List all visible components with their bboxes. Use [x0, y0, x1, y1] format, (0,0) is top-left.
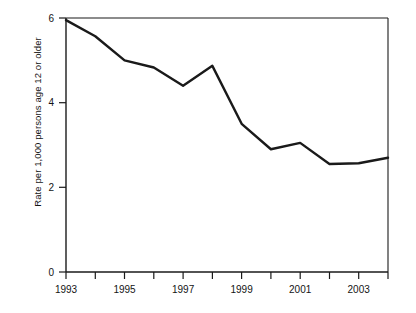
- x-axis-ticks: [66, 272, 388, 279]
- y-tick-label-0: 0: [48, 267, 54, 278]
- y-tick-label-6: 6: [48, 13, 54, 24]
- x-tick-label-1999: 1999: [230, 284, 253, 295]
- data-series-line: [66, 20, 388, 164]
- x-tick-label-1995: 1995: [113, 284, 136, 295]
- y-axis-tick-labels: 0 2 4 6: [48, 13, 54, 278]
- x-tick-label-2003: 2003: [348, 284, 371, 295]
- x-tick-label-2001: 2001: [289, 284, 312, 295]
- y-axis-title: Rate per 1,000 persons age 12 or older: [30, 0, 46, 262]
- chart-canvas: 0 2 4 6 1993 1995 1997 1999 2001 20: [0, 0, 416, 313]
- x-axis-tick-labels: 1993 1995 1997 1999 2001 2003: [55, 284, 370, 295]
- y-tick-label-4: 4: [48, 97, 54, 108]
- y-tick-label-2: 2: [48, 182, 54, 193]
- x-tick-label-1993: 1993: [55, 284, 78, 295]
- y-axis-ticks: [59, 18, 66, 272]
- plot-frame: [66, 18, 388, 272]
- line-chart: Rate per 1,000 persons age 12 or older 0…: [0, 0, 416, 313]
- x-tick-label-1997: 1997: [172, 284, 195, 295]
